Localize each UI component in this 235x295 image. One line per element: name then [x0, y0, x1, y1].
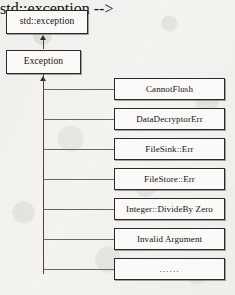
inheritance-arrow-stem: [43, 39, 44, 49]
branch-line: [43, 209, 114, 210]
class-box-ellipsis[interactable]: ......: [114, 258, 225, 280]
branch-line: [43, 239, 114, 240]
class-box-label: FileSink::Err: [145, 145, 193, 154]
class-box-label: Exception: [24, 57, 63, 67]
class-box-cannot-flush[interactable]: CannotFlush: [114, 78, 225, 100]
class-box-integer-divide-by-zero[interactable]: Integer::DivideBy Zero: [114, 198, 225, 220]
branch-line: [43, 269, 114, 270]
class-box-data-decryptor-err[interactable]: DataDecryptorErr: [114, 108, 225, 130]
class-box-label: ......: [159, 265, 180, 274]
class-box-label: CannotFlush: [146, 85, 193, 94]
class-box-std-exception[interactable]: std::exception: [6, 10, 88, 34]
class-box-label: Integer::DivideBy Zero: [126, 205, 213, 214]
class-box-file-sink-err[interactable]: FileSink::Err: [114, 138, 225, 160]
branch-line: [43, 119, 114, 120]
class-box-label: DataDecryptorErr: [136, 115, 203, 124]
class-box-invalid-argument[interactable]: Invalid Argument: [114, 228, 225, 250]
exception-hierarchy-diagram: std::exception std::exception --> Except…: [0, 0, 235, 295]
branch-line: [43, 89, 114, 90]
class-box-exception[interactable]: Exception: [6, 50, 81, 74]
hierarchy-trunk-line: [43, 74, 44, 274]
class-box-label: Invalid Argument: [137, 235, 202, 244]
inheritance-arrow-head-icon: [40, 35, 46, 40]
class-box-label: std::exception: [20, 17, 75, 27]
class-box-file-store-err[interactable]: FileStore::Err: [114, 168, 225, 190]
branch-line: [43, 149, 114, 150]
class-box-label: FileStore::Err: [144, 175, 195, 184]
branch-line: [43, 179, 114, 180]
